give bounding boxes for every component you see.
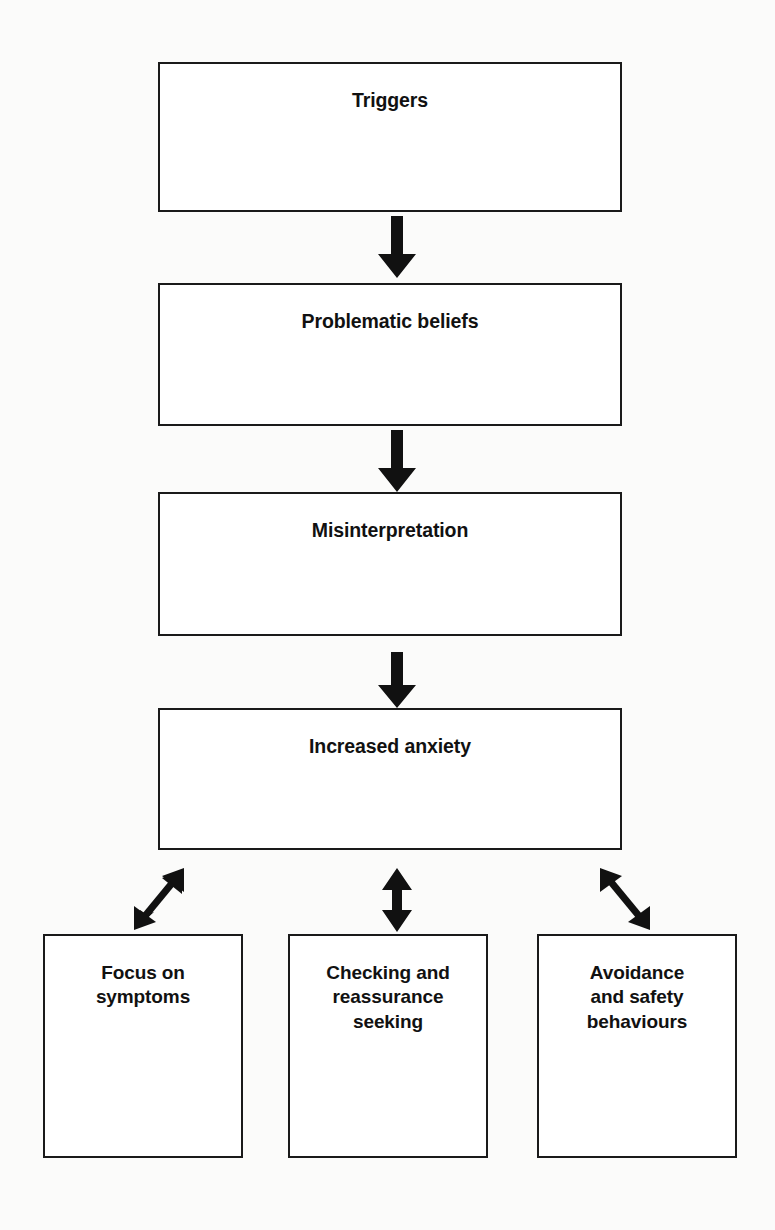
arrow-double-anxiety-to-avoidance [594, 866, 656, 932]
arrow-down-triggers-to-beliefs [372, 216, 422, 278]
node-misinterpretation-label: Misinterpretation [312, 494, 468, 634]
node-avoidance-and-safety-behaviours[interactable]: Avoidance and safety behaviours [537, 934, 737, 1158]
node-increased-anxiety[interactable]: Increased anxiety [158, 708, 622, 850]
node-increased-anxiety-label: Increased anxiety [309, 710, 471, 848]
node-misinterpretation[interactable]: Misinterpretation [158, 492, 622, 636]
node-triggers[interactable]: Triggers [158, 62, 622, 212]
node-checking-and-reassurance-seeking-label: Checking and reassurance seeking [326, 936, 449, 1156]
arrow-double-anxiety-to-focus [128, 866, 190, 932]
node-problematic-beliefs[interactable]: Problematic beliefs [158, 283, 622, 426]
node-focus-on-symptoms-label: Focus on symptoms [96, 936, 190, 1156]
node-triggers-label: Triggers [352, 64, 428, 210]
node-problematic-beliefs-label: Problematic beliefs [302, 285, 479, 424]
arrow-down-misinterpretation-to-anxiety [372, 652, 422, 708]
node-avoidance-and-safety-behaviours-label: Avoidance and safety behaviours [587, 936, 687, 1156]
node-focus-on-symptoms[interactable]: Focus on symptoms [43, 934, 243, 1158]
flowchart-canvas: Triggers Problematic beliefs Misinterpre… [0, 0, 775, 1230]
node-checking-and-reassurance-seeking[interactable]: Checking and reassurance seeking [288, 934, 488, 1158]
arrow-down-beliefs-to-misinterpretation [372, 430, 422, 492]
arrow-double-anxiety-to-checking [374, 868, 420, 932]
